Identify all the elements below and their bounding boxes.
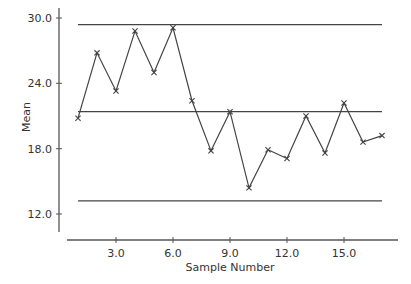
x-tick-label: 15.0 (332, 247, 357, 260)
y-tick-label: 18.0 (28, 143, 53, 156)
x-tick-label: 6.0 (164, 247, 182, 260)
x-marker-icon (303, 113, 308, 118)
x-marker-icon (341, 100, 346, 105)
y-axis-title: Mean (20, 102, 33, 132)
x-tick-label: 9.0 (221, 247, 239, 260)
y-tick-label: 24.0 (28, 77, 53, 90)
x-marker-icon (322, 150, 327, 155)
x-axis: 3.06.09.012.015.0 (67, 237, 398, 260)
x-tick-label: 12.0 (275, 247, 300, 260)
series-line (78, 28, 382, 188)
y-tick-label: 12.0 (28, 208, 53, 221)
x-tick-label: 3.0 (107, 247, 125, 260)
x-marker-icon (208, 148, 213, 153)
x-marker-icon (265, 147, 270, 152)
x-marker-icon (151, 70, 156, 75)
y-tick-label: 30.0 (28, 12, 53, 25)
control-chart: 12.018.024.030.0 3.06.09.012.015.0 Sampl… (0, 0, 411, 284)
x-marker-icon (284, 156, 289, 161)
data-series (75, 25, 384, 190)
x-axis-title: Sample Number (186, 261, 275, 274)
